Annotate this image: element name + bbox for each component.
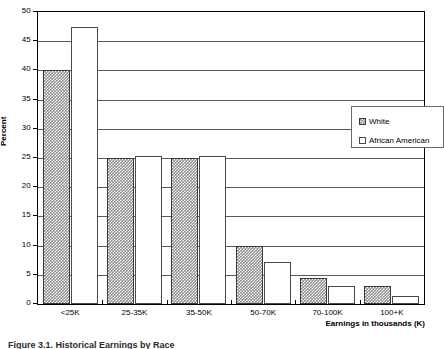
legend-item-african-american: African American	[359, 133, 443, 147]
figure-caption: Figure 3.1. Historical Earnings by Race	[8, 341, 428, 349]
y-axis-tick-label: 15	[22, 210, 31, 219]
y-axis-tick-label: 0	[26, 298, 31, 307]
x-axis-tick-label: 70-100K	[312, 308, 342, 317]
y-axis-tick-label: 45	[22, 35, 31, 44]
x-axis-tick-label: 100+K	[380, 308, 403, 317]
plot-area: White African American	[37, 11, 425, 305]
legend-swatch-white	[359, 118, 366, 125]
y-axis-tick-label: 50	[22, 6, 31, 15]
y-axis-title: Percent	[0, 117, 8, 146]
figure-caption-text: Figure 3.1. Historical Earnings by Race	[8, 341, 175, 349]
bar	[236, 246, 263, 304]
x-axis-tick-mark	[167, 300, 168, 304]
bar	[199, 156, 226, 304]
y-axis-tick-label: 35	[22, 94, 31, 103]
legend-label-white: White	[369, 117, 389, 126]
x-axis-tick-mark	[295, 300, 296, 304]
y-axis-tick-label: 30	[22, 123, 31, 132]
x-axis-tick-mark	[231, 300, 232, 304]
y-axis-tick-label: 25	[22, 152, 31, 161]
legend-item-white: White	[359, 114, 443, 128]
bar	[328, 286, 355, 304]
y-axis-tick-label: 5	[26, 269, 31, 278]
bar	[135, 156, 162, 304]
x-axis-tick-label: 25-35K	[122, 308, 148, 317]
bar	[43, 70, 70, 304]
x-axis-title: Earnings in thousands (K)	[325, 319, 425, 328]
bar	[264, 262, 291, 304]
x-axis-tick-label: <25K	[61, 308, 80, 317]
bar	[392, 296, 419, 304]
y-axis: 05101520253035404550	[0, 11, 37, 305]
x-axis-tick-mark	[102, 300, 103, 304]
x-axis-tick-label: 35-50K	[186, 308, 212, 317]
bar	[171, 158, 198, 304]
x-axis-tick-label: 50-70K	[250, 308, 276, 317]
x-axis-tick-mark	[360, 300, 361, 304]
legend-swatch-african-american	[359, 137, 366, 144]
bar	[364, 286, 391, 304]
bar	[107, 158, 134, 304]
y-axis-tick-label: 20	[22, 181, 31, 190]
bar	[71, 27, 98, 304]
y-axis-tick-label: 40	[22, 64, 31, 73]
bar	[300, 278, 327, 304]
legend-label-african-american: African American	[369, 136, 429, 145]
y-axis-tick-label: 10	[22, 240, 31, 249]
legend: White African American	[351, 106, 444, 148]
